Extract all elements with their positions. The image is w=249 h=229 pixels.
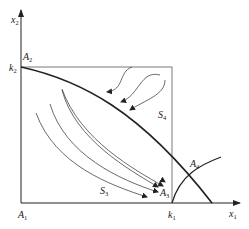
point-a2-label: A2 (23, 52, 32, 64)
phase-diagram: x2 x1 A2 k2 A1 k1 A3 A4 S3 S4 (0, 0, 249, 229)
point-a3-label: A3 (160, 188, 169, 200)
separatrix-curve (21, 67, 212, 203)
diagram-graphics (0, 0, 249, 229)
point-a4-label: A4 (190, 159, 199, 171)
region-s4-label: S4 (158, 110, 166, 122)
y-axis-label: x2 (11, 15, 19, 27)
k1-label: k1 (168, 210, 176, 222)
x-axis-label: x1 (229, 209, 237, 221)
k2-label: k2 (9, 63, 17, 75)
s4-trajectories (107, 67, 165, 110)
s3-trajectories (36, 89, 165, 197)
point-a1-label: A1 (18, 210, 27, 222)
region-s3-label: S3 (100, 186, 108, 198)
